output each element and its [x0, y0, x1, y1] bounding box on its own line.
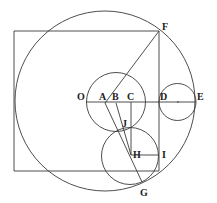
label-O: O [77, 91, 85, 102]
label-D: D [160, 91, 167, 102]
label-B: B [112, 91, 119, 102]
label-A: A [99, 91, 107, 102]
label-F: F [162, 21, 168, 32]
label-I: I [162, 149, 166, 160]
label-J: J [122, 118, 127, 129]
segment-AG [105, 103, 142, 182]
label-E: E [197, 91, 204, 102]
geometry-diagram: O A B C D E F G H I J [0, 0, 217, 203]
label-G: G [140, 187, 148, 198]
center-dot [177, 101, 179, 103]
label-C: C [127, 91, 134, 102]
label-H: H [133, 149, 141, 160]
